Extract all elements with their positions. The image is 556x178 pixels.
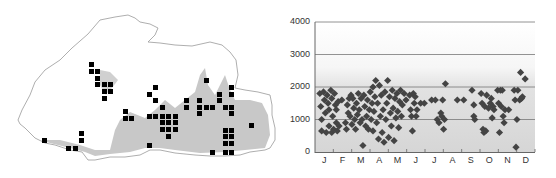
record-square [249,123,254,128]
record-square [73,146,78,151]
record-square [197,105,202,110]
x-tick-label: M [391,155,405,165]
x-tick-label: M [354,155,368,165]
x-tick-label: A [446,155,460,165]
record-square [204,78,209,83]
x-tick-label: F [336,155,350,165]
record-square [102,82,107,87]
record-square [229,150,234,155]
record-square [229,111,234,116]
record-square [95,69,100,74]
record-square [147,114,152,119]
x-tick-label: J [427,155,441,165]
record-square [153,85,158,90]
record-square [204,105,209,110]
record-square [153,114,158,119]
record-square [108,89,113,94]
record-square [217,98,222,103]
record-square [129,116,134,121]
record-square [166,114,171,119]
elevation-scatter-chart [280,0,556,178]
record-square [229,141,234,146]
record-square [184,98,189,103]
record-square [95,76,100,81]
record-square [197,111,202,116]
record-square [166,134,171,139]
x-tick-label: N [501,155,515,165]
record-square [79,138,84,143]
record-square [210,150,215,155]
y-tick-label: 0 [280,146,310,156]
record-square [223,141,228,146]
record-square [89,62,94,67]
record-square [217,92,222,97]
record-square [223,150,228,155]
record-square [160,105,165,110]
x-tick-label: A [372,155,386,165]
x-tick-label: D [519,155,533,165]
record-square [166,120,171,125]
record-square [173,120,178,125]
record-square [229,92,234,97]
y-tick-label: 4000 [280,16,310,26]
record-square [147,92,152,97]
record-square [123,116,128,121]
record-square [160,120,165,125]
record-square [42,138,47,143]
record-square [123,109,128,114]
record-square [229,134,234,139]
record-square [223,128,228,133]
y-tick-label: 1000 [280,114,310,124]
record-square [102,96,107,101]
record-square [229,85,234,90]
x-tick-label: J [409,155,423,165]
y-tick-label: 2000 [280,81,310,91]
x-tick-label: O [482,155,496,165]
x-tick-label: S [464,155,478,165]
record-square [160,127,165,132]
record-square [173,114,178,119]
record-square [79,131,84,136]
distribution-map [0,0,290,178]
record-square [153,98,158,103]
record-square [197,98,202,103]
record-square [223,134,228,139]
record-square [108,82,113,87]
record-square [173,127,178,132]
record-square [66,146,71,151]
record-square [147,143,152,148]
record-square [184,105,189,110]
record-square [229,105,234,110]
y-tick-label: 3000 [280,49,310,59]
record-square [89,69,94,74]
record-square [160,114,165,119]
record-square [95,82,100,87]
x-tick-label: J [317,155,331,165]
record-square [166,127,171,132]
record-square [210,105,215,110]
record-square [223,105,228,110]
record-square [229,128,234,133]
record-square [102,89,107,94]
